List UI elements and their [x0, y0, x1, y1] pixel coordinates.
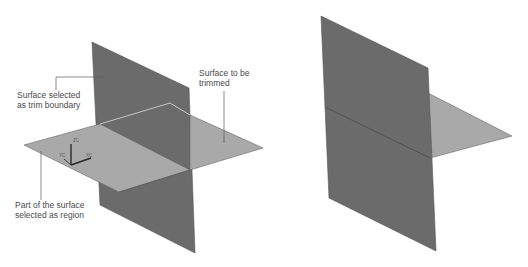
triad-x-label: XC	[86, 153, 93, 158]
triad-z-label: ZC	[73, 138, 80, 143]
triad-y-label: YC	[59, 153, 66, 158]
surface-to-trim-right	[190, 115, 263, 170]
label-trim-boundary: Surface selected as trim boundary	[17, 90, 80, 110]
label-surface-to-trim: Surface to be trimmed	[199, 68, 250, 88]
diagram-canvas: ZC XC YC	[0, 0, 528, 267]
label-region: Part of the surface selected as region	[15, 200, 84, 220]
trimmed-surface-remaining	[428, 93, 512, 158]
right-figure	[321, 16, 512, 251]
boundary-plane-after	[321, 16, 436, 251]
